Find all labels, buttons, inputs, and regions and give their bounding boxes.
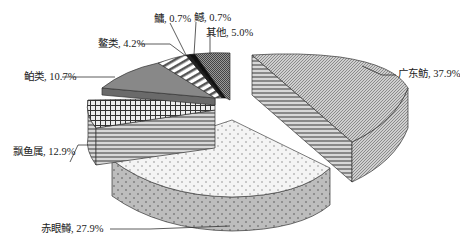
label-aolei: 鳌类, 4.2% (98, 38, 145, 50)
label-guangdongfang: 广东鲂, 37.9% (398, 68, 460, 80)
label-yong: 鳙, 0.7% (154, 13, 191, 25)
label-bolei: 鲌类, 10.7% (24, 71, 76, 83)
label-qita: 其他, 5.0% (206, 27, 253, 39)
label-gan: 鳡, 0.7% (194, 12, 231, 24)
label-piaoyushu: 飘鱼属, 12.9% (13, 146, 75, 158)
label-chiyanzun: 赤眼鳟, 27.9% (41, 223, 103, 235)
